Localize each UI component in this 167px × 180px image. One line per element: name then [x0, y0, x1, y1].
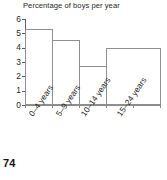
page-number: 74: [3, 157, 16, 169]
x-tick-mark: [79, 105, 80, 108]
y-tick-label: 1: [16, 85, 21, 95]
x-tick-mark: [106, 105, 107, 108]
y-tick-label: 4: [16, 42, 21, 52]
chart-title: Percentage of boys per year: [23, 1, 120, 10]
plot-area: 6 5 4 3 2 1 0: [25, 19, 161, 105]
figure-bar-chart: Percentage of boys per year 6 5 4 3 2 1: [0, 0, 167, 180]
y-tick-label: 0: [16, 100, 21, 110]
y-tick-label: 3: [16, 57, 21, 67]
x-tick-mark: [133, 105, 134, 108]
x-tick-mark: [52, 105, 53, 108]
y-tick-label: 2: [16, 71, 21, 81]
y-tick-label: 5: [16, 28, 21, 38]
y-tick-label: 6: [16, 14, 21, 24]
x-tick-mark: [160, 105, 161, 108]
y-tick-mark: [22, 19, 25, 20]
x-tick-mark: [25, 105, 26, 108]
